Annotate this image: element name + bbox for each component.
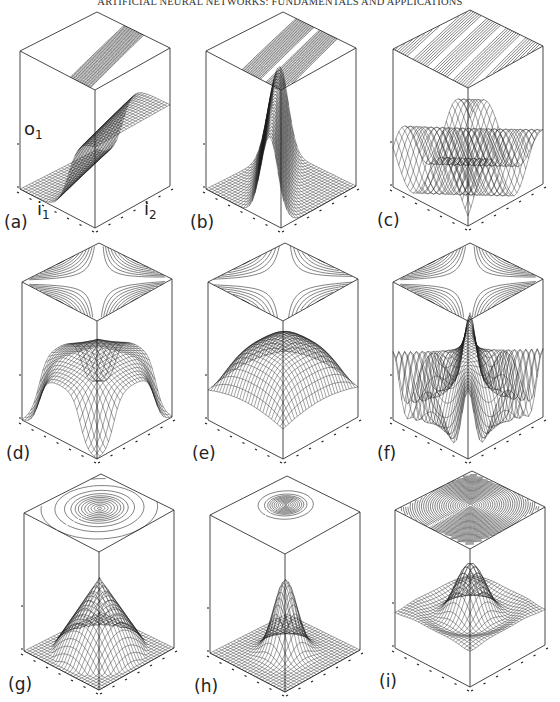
panel-f: (f) bbox=[373, 231, 560, 471]
axis-label-i2: i2 bbox=[144, 198, 157, 222]
panel-label-a: (a) bbox=[4, 212, 28, 232]
surface-plot-i bbox=[375, 459, 560, 699]
panel-d: (d) bbox=[2, 231, 192, 471]
contour-map bbox=[70, 25, 143, 87]
axis-label-i1: i1 bbox=[37, 198, 50, 222]
panel-c: (c) bbox=[373, 0, 560, 238]
surface-plot-g bbox=[4, 462, 194, 702]
panel-i: (i) bbox=[375, 459, 560, 699]
contour-map bbox=[41, 479, 158, 539]
panel-label-d: (d) bbox=[6, 443, 30, 463]
panel-label-i: (i) bbox=[379, 671, 397, 691]
panel-label-h: (h) bbox=[194, 676, 218, 696]
surface-plot-c bbox=[373, 0, 560, 238]
contour-map bbox=[395, 11, 540, 88]
panel-g: (g) bbox=[4, 462, 194, 702]
contour-map bbox=[401, 475, 539, 545]
axis-i1-sub: 1 bbox=[42, 208, 50, 222]
contour-map bbox=[214, 246, 353, 318]
surface-plot-b bbox=[186, 0, 376, 240]
surface-plot-f bbox=[373, 231, 560, 471]
panel-b: (b) bbox=[186, 0, 376, 240]
panel-label-e: (e) bbox=[192, 443, 216, 463]
axis-o-sub: 1 bbox=[35, 128, 43, 142]
contour-map bbox=[29, 246, 165, 317]
axis-o-letter: o bbox=[24, 118, 35, 139]
axis-i2-sub: 2 bbox=[149, 208, 157, 222]
contour-map bbox=[258, 491, 313, 519]
axis-label-o1: o1 bbox=[24, 118, 43, 142]
surface-plot-e bbox=[188, 231, 378, 471]
surface-plot-h bbox=[190, 464, 380, 702]
panel-label-c: (c) bbox=[377, 210, 400, 230]
panel-h: (h) bbox=[190, 464, 380, 702]
panel-label-b: (b) bbox=[190, 212, 214, 232]
panel-label-g: (g) bbox=[8, 674, 32, 694]
surface-plot-d bbox=[2, 231, 192, 471]
contour-map bbox=[242, 19, 337, 90]
panel-e: (e) bbox=[188, 231, 378, 471]
contour-map bbox=[400, 246, 536, 317]
